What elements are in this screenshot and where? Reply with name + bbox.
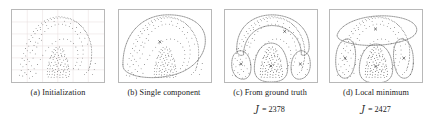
contour-center-blob (359, 44, 392, 82)
contour-top-arc (237, 15, 309, 56)
scatter-points-blob (47, 47, 70, 78)
scatter-points-blob (365, 47, 388, 78)
component-mean-markers (158, 40, 161, 43)
contour-right-lobe (291, 51, 310, 79)
panel-a-initialization (11, 9, 105, 83)
caption-panel-d: (d) Local minimum (311, 88, 431, 97)
contour-wide-tilted-ellipse (337, 16, 417, 46)
cost-value-c: 2378 (268, 105, 284, 114)
figure-container: (a) Initialization (b) Single component … (0, 0, 431, 125)
scatter-points-blob (154, 47, 177, 78)
grid-lines (12, 10, 104, 82)
cost-value-d: 2427 (374, 105, 390, 114)
panel-b-single-component (118, 9, 212, 83)
scatter-points-arc (19, 16, 96, 78)
scatter-points-blob (260, 47, 283, 78)
panel-a-plot (12, 10, 104, 82)
panel-d-plot (330, 10, 422, 82)
scatter-points (337, 16, 414, 78)
panel-c-plot (225, 10, 317, 82)
scatter-points (126, 16, 203, 78)
gmm-contours (232, 15, 311, 82)
panel-b-plot (119, 10, 211, 82)
cost-label-panel-d: J=2427 (311, 103, 431, 114)
contour-left-lobe (232, 51, 251, 79)
gmm-contours (123, 15, 205, 78)
panel-c-from-ground-truth (224, 9, 318, 83)
panel-d-local-minimum (329, 9, 423, 83)
